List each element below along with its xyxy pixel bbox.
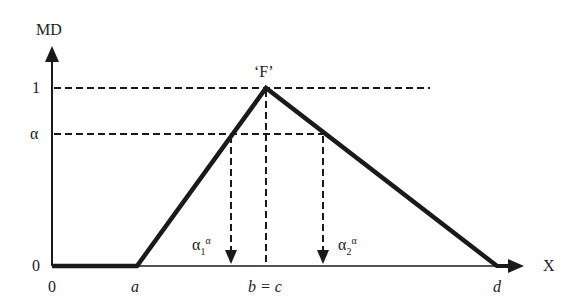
y-axis-arrow-icon (45, 46, 59, 62)
y-tick-1: 1 (32, 80, 40, 96)
membership-function (52, 88, 497, 266)
x-tick-b-equals-c: b = c (248, 279, 282, 295)
x-tick-0: 0 (48, 279, 56, 295)
alpha-cut-left-label: α1α (192, 236, 211, 257)
y-tick-alpha: α (30, 126, 38, 142)
x-tick-a: a (131, 279, 139, 295)
alpha-cut-right-arrow-icon (317, 250, 329, 264)
y-tick-0: 0 (32, 258, 40, 274)
y-axis-label: MD (36, 22, 62, 38)
x-axis-label: X (543, 258, 555, 274)
x-tick-d: d (493, 279, 501, 295)
alpha-cut-right-label: α2α (338, 236, 357, 257)
x-axis-arrow-icon (508, 259, 524, 273)
membership-diagram (0, 0, 580, 307)
peak-label: ‘F’ (254, 64, 274, 80)
alpha-cut-left-arrow-icon (225, 250, 237, 264)
